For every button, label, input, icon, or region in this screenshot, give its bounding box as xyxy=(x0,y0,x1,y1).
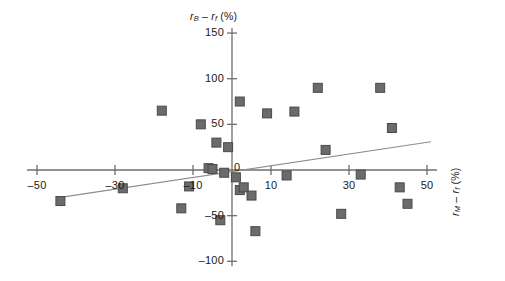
x-tick-label: –50 xyxy=(17,179,57,191)
data-point xyxy=(337,209,346,218)
data-point xyxy=(56,197,65,206)
data-point xyxy=(290,107,299,116)
data-point xyxy=(212,138,221,147)
y-tick-label: 100 xyxy=(186,72,224,84)
data-points-layer xyxy=(56,83,412,235)
data-point xyxy=(239,183,248,192)
data-point xyxy=(224,143,233,152)
x-tick-label: 50 xyxy=(407,179,447,191)
x-axis-title: rM – rf (%) xyxy=(449,168,462,216)
data-point xyxy=(321,145,330,154)
data-point xyxy=(313,83,322,92)
scatter-plot-figure: –50–30–10010305015010050–50–100 rB – rf … xyxy=(0,0,505,281)
data-point xyxy=(356,170,365,179)
y-tick-label: –100 xyxy=(186,254,224,266)
data-point xyxy=(403,199,412,208)
data-point xyxy=(235,97,244,106)
data-point xyxy=(263,109,272,118)
x-tick-label: –30 xyxy=(95,179,135,191)
x-tick-label: 30 xyxy=(329,179,369,191)
data-point xyxy=(231,173,240,182)
y-axis-title: rB – rf (%) xyxy=(190,10,237,23)
data-point xyxy=(395,183,404,192)
data-point xyxy=(247,191,256,200)
data-point xyxy=(208,165,217,174)
data-point xyxy=(177,204,186,213)
y-tick-label: –50 xyxy=(186,209,224,221)
data-point xyxy=(157,106,166,115)
x-tick-label: –10 xyxy=(173,179,213,191)
data-point xyxy=(220,168,229,177)
data-point xyxy=(376,83,385,92)
data-point xyxy=(251,227,260,236)
y-tick-label: 150 xyxy=(186,26,224,38)
x-tick-label: 10 xyxy=(251,179,291,191)
x-tick-label: 0 xyxy=(234,161,254,173)
y-tick-label: 50 xyxy=(186,117,224,129)
plot-canvas xyxy=(0,0,505,281)
data-point xyxy=(387,124,396,133)
